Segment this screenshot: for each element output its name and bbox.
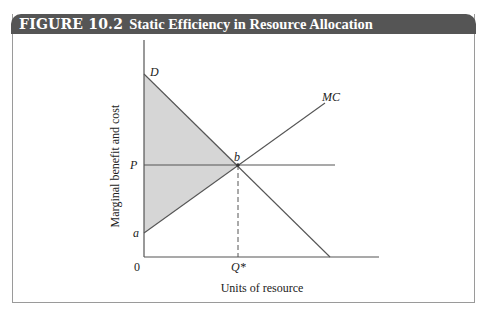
label-origin: 0 (134, 260, 140, 274)
label-mc: MC (321, 90, 341, 104)
label-p: P (129, 158, 138, 172)
label-b: b (234, 150, 240, 164)
x-axis-title: Units of resource (221, 281, 304, 295)
y-axis-title: Marginal benefit and cost (108, 104, 122, 227)
label-a: a (133, 226, 139, 240)
label-qstar: Q* (231, 260, 246, 274)
label-d: D (149, 65, 159, 79)
chart: D MC b P a 0 Q* Units of resource Margin… (0, 0, 487, 316)
net-benefit-area (144, 74, 238, 233)
